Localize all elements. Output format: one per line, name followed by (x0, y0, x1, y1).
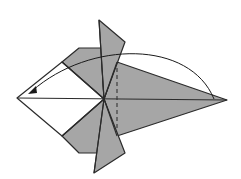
origami-diagram (0, 0, 241, 179)
